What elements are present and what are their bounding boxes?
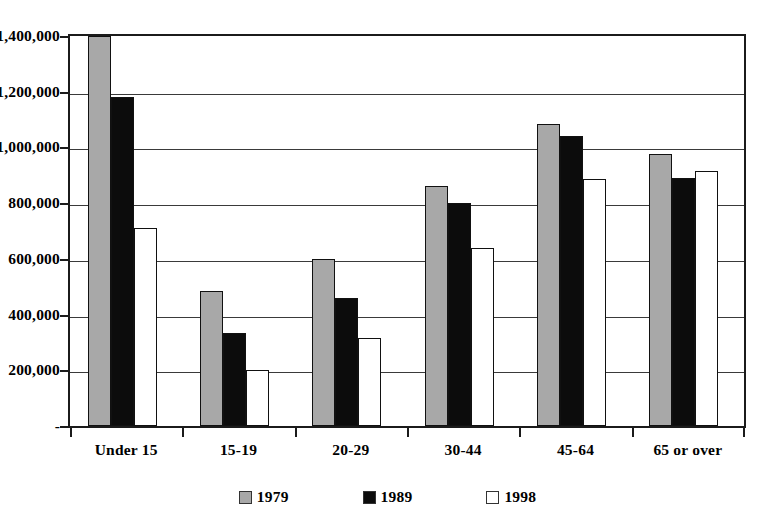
- legend-swatch-icon: [239, 491, 252, 504]
- y-axis-tick-label: 400,000: [8, 306, 60, 324]
- bar-1998: [246, 370, 269, 426]
- bar-group: [182, 36, 294, 426]
- x-axis-tick-mark: [743, 428, 745, 437]
- x-axis-tick-mark: [519, 428, 521, 437]
- legend-item-1979: 1979: [239, 488, 289, 506]
- y-axis-tick-mark: [60, 426, 69, 428]
- legend-swatch-icon: [363, 491, 376, 504]
- x-axis-category-label: 65 or over: [653, 441, 722, 459]
- y-axis-labels: -200,000400,000600,000800,0001,000,0001,…: [0, 34, 60, 428]
- bar-1998: [583, 179, 606, 426]
- y-axis-tick-mark: [60, 147, 69, 149]
- y-axis-tick-label: 600,000: [8, 250, 60, 268]
- bar-1979: [425, 186, 448, 426]
- y-axis-tick-label: 1,400,000: [0, 27, 60, 45]
- x-axis-category-label: 20-29: [332, 441, 369, 459]
- y-axis-tick-label: 1,000,000: [0, 138, 60, 156]
- bar-1989: [335, 298, 358, 426]
- bar-group: [519, 36, 631, 426]
- bar-chart: -200,000400,000600,000800,0001,000,0001,…: [0, 0, 775, 526]
- bar-1998: [695, 171, 718, 426]
- bar-1989: [111, 97, 134, 426]
- x-axis-category-label: 45-64: [557, 441, 594, 459]
- bar-1998: [358, 338, 381, 426]
- bar-group: [295, 36, 407, 426]
- chart-legend: 197919891998: [0, 484, 775, 510]
- bar-1989: [560, 136, 583, 426]
- x-axis-tick-mark: [70, 428, 72, 437]
- y-axis-tick-label: 800,000: [8, 194, 60, 212]
- x-axis-tick-mark: [182, 428, 184, 437]
- y-axis-tick-mark: [60, 315, 69, 317]
- y-axis-tick-label: 1,200,000: [0, 83, 60, 101]
- bar-1979: [649, 154, 672, 426]
- y-axis-tick-mark: [60, 36, 69, 38]
- legend-label: 1979: [257, 488, 289, 506]
- legend-item-1989: 1989: [363, 488, 413, 506]
- bar-group: [632, 36, 744, 426]
- x-axis-tick-mark: [407, 428, 409, 437]
- x-axis-category-label: 15-19: [220, 441, 257, 459]
- bar-group: [70, 36, 182, 426]
- bar-1979: [88, 36, 111, 426]
- bar-1979: [537, 124, 560, 426]
- bar-1989: [448, 203, 471, 426]
- x-axis-tick-mark: [295, 428, 297, 437]
- x-axis-tick-mark: [632, 428, 634, 437]
- bars-layer: [70, 36, 744, 426]
- bar-1979: [200, 291, 223, 426]
- bar-1998: [134, 228, 157, 426]
- x-axis-ticks: [68, 428, 746, 438]
- y-axis-tick-mark: [60, 370, 69, 372]
- legend-item-1998: 1998: [486, 488, 536, 506]
- x-axis-category-label: 30-44: [445, 441, 482, 459]
- bar-group: [407, 36, 519, 426]
- bar-1989: [223, 333, 246, 426]
- bar-1998: [471, 248, 494, 426]
- y-axis-tick-mark: [60, 203, 69, 205]
- legend-swatch-icon: [486, 491, 499, 504]
- x-axis-labels: Under 1515-1920-2930-4445-6465 or over: [68, 441, 746, 467]
- bar-1979: [312, 259, 335, 426]
- y-axis-tick-mark: [60, 259, 69, 261]
- y-axis-tick-mark: [60, 92, 69, 94]
- bar-1989: [672, 178, 695, 426]
- y-axis-tick-label: 200,000: [8, 361, 60, 379]
- legend-label: 1998: [504, 488, 536, 506]
- legend-label: 1989: [381, 488, 413, 506]
- x-axis-category-label: Under 15: [95, 441, 158, 459]
